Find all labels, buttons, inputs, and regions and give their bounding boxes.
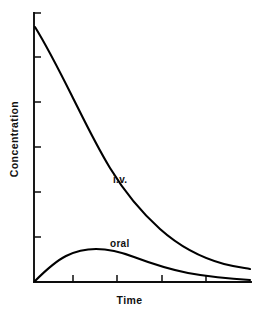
series-label-iv: i.v. <box>113 174 127 185</box>
y-axis-ticks <box>34 13 41 237</box>
series-curve-oral <box>35 249 250 281</box>
series-label-oral: oral <box>110 238 130 249</box>
x-axis-label: Time <box>0 294 259 306</box>
series-curve-iv <box>35 27 250 269</box>
chart-figure: Concentration Time i.v. oral <box>0 0 259 317</box>
x-axis-ticks <box>73 275 206 282</box>
chart-plot-area <box>0 0 259 317</box>
